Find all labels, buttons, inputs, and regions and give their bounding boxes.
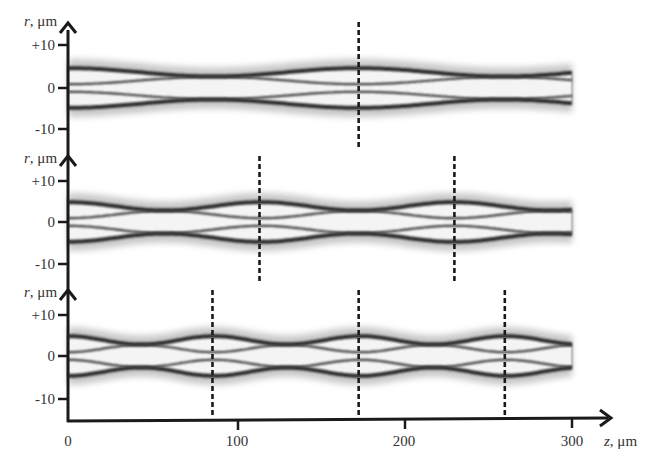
ytick-label: 0 <box>48 214 56 230</box>
xtick-label: 100 <box>226 433 249 449</box>
ytick-label: +10 <box>32 173 55 189</box>
ytick-label: +10 <box>32 37 55 53</box>
ytick-label: -10 <box>35 121 55 137</box>
r-axis-tick-labels: +10 0 -10 +10 0 -10 +10 0 -10 <box>32 37 55 407</box>
r-axis-title: r, μm <box>24 13 57 29</box>
ytick-label: -10 <box>35 391 55 407</box>
ytick-label: -10 <box>35 256 55 272</box>
figure: +10 0 -10 +10 0 -10 +10 0 -10 r, μm r, μ… <box>0 0 664 461</box>
xtick-label: 0 <box>64 433 72 449</box>
ytick-label: 0 <box>48 348 56 364</box>
r-axis-title: r, μm <box>24 284 57 300</box>
panel-2-intensity-map <box>68 193 572 251</box>
z-axis-title: z, μm <box>603 433 637 449</box>
z-axis-line <box>67 418 608 421</box>
ytick-label: 0 <box>48 80 56 96</box>
xtick-label: 300 <box>561 433 584 449</box>
xtick-label: 200 <box>393 433 416 449</box>
panel-3-intensity-map <box>68 327 572 385</box>
z-axis-tick-labels: 0 100 200 300 <box>64 433 583 449</box>
ytick-label: +10 <box>32 307 55 323</box>
panel-1-intensity-map <box>68 59 572 117</box>
r-axis-title: r, μm <box>24 150 57 166</box>
